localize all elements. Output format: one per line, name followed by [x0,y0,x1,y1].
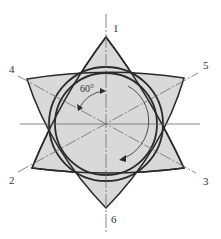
label-point-4: 4 [9,64,15,75]
angle-label: 60° [80,84,94,94]
label-point-5: 5 [203,60,209,71]
star-diagram [0,0,221,239]
label-point-6: 6 [111,214,117,225]
label-point-1: 1 [113,23,119,34]
star-shape [27,37,184,208]
label-point-3: 3 [203,176,209,187]
label-point-2: 2 [9,175,15,186]
